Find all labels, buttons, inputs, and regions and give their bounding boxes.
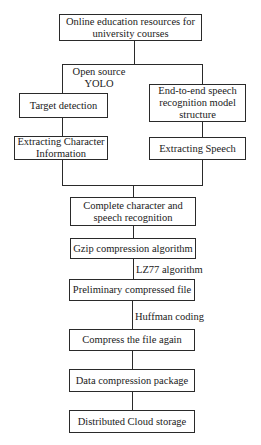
node-target-detection-text: Target detection bbox=[30, 100, 98, 112]
connector-speechmodel-to-speech bbox=[202, 121, 203, 137]
connector-branch-horizontal bbox=[62, 64, 203, 65]
node-complete-text: Complete character and speech recognitio… bbox=[79, 200, 187, 224]
node-compress-again-text: Compress the file again bbox=[82, 334, 181, 346]
edge-label-huffman: Huffman coding bbox=[135, 311, 204, 323]
connector-char-down bbox=[62, 159, 63, 185]
connector-target-to-char bbox=[62, 117, 63, 136]
connector-speech-down bbox=[202, 159, 203, 185]
node-extract-speech-text: Extracting Speech bbox=[159, 143, 236, 155]
connector-merge-down bbox=[133, 185, 134, 197]
connector-left-down bbox=[62, 64, 63, 93]
node-extract-speech: Extracting Speech bbox=[149, 137, 246, 160]
node-cloud: Distributed Cloud storage bbox=[69, 410, 195, 433]
node-extract-char-text: Extracting Character Information bbox=[15, 136, 107, 160]
connector-right-down bbox=[202, 64, 203, 84]
edge-label-lz77: LZ77 algorithm bbox=[136, 264, 203, 276]
node-preliminary: Preliminary compressed file bbox=[69, 279, 195, 301]
node-compress-again: Compress the file again bbox=[69, 329, 195, 351]
node-source-text: Online education resources for universit… bbox=[60, 16, 201, 40]
node-preliminary-text: Preliminary compressed file bbox=[73, 284, 191, 296]
connector-complete-to-gzip bbox=[133, 225, 134, 238]
node-extract-char: Extracting Character Information bbox=[14, 136, 108, 160]
connector-gzip-to-preliminary bbox=[133, 258, 134, 279]
connector-source-down bbox=[134, 40, 135, 64]
node-package: Data compression package bbox=[69, 369, 195, 392]
node-speech-model: End-to-end speech recognition model stru… bbox=[149, 84, 246, 122]
node-speech-model-text: End-to-end speech recognition model stru… bbox=[154, 85, 241, 121]
connector-preliminary-to-compress bbox=[132, 300, 133, 329]
edge-label-yolo: Open source YOLO bbox=[66, 66, 132, 90]
node-complete: Complete character and speech recognitio… bbox=[70, 197, 196, 226]
connector-package-to-cloud bbox=[132, 391, 133, 410]
node-source: Online education resources for universit… bbox=[59, 14, 202, 41]
node-package-text: Data compression package bbox=[76, 375, 189, 387]
node-cloud-text: Distributed Cloud storage bbox=[78, 416, 187, 428]
node-target-detection: Target detection bbox=[19, 93, 108, 118]
node-gzip-text: Gzip compression algorithm bbox=[73, 243, 193, 255]
node-gzip: Gzip compression algorithm bbox=[70, 238, 196, 259]
connector-compress-to-package bbox=[132, 350, 133, 369]
